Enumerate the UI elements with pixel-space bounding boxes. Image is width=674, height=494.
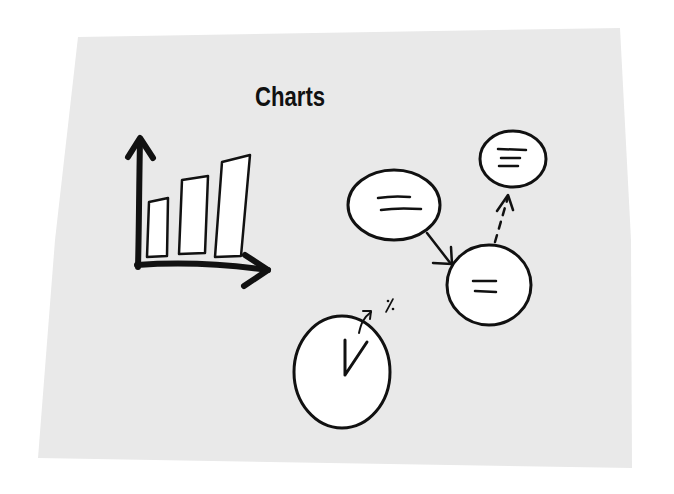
y-axis-arrow (138, 140, 140, 267)
node-left (348, 170, 440, 240)
bar-1 (147, 198, 168, 257)
pie-circle (294, 316, 390, 428)
node-bottom-right (447, 245, 531, 325)
bar-2 (179, 176, 208, 254)
sketch-canvas (0, 0, 674, 494)
